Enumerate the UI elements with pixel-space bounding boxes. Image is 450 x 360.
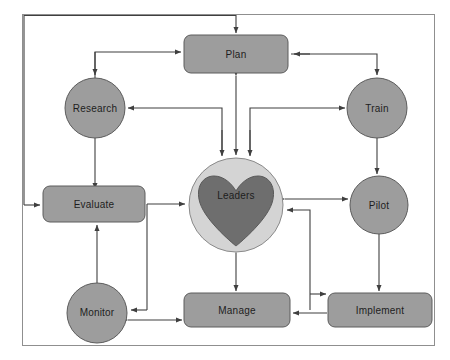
node-evaluate[interactable]: Evaluate bbox=[43, 186, 145, 222]
node-manage-shape[interactable] bbox=[184, 293, 290, 327]
node-plan-shape[interactable] bbox=[184, 35, 288, 73]
node-pilot[interactable]: Pilot bbox=[350, 176, 408, 234]
node-manage[interactable]: Manage bbox=[184, 293, 290, 327]
diagram-canvas: Plan Research Train Evaluate Leaders Pil… bbox=[0, 0, 450, 360]
node-research[interactable]: Research bbox=[65, 78, 125, 138]
edge-leaders-to-research bbox=[128, 108, 222, 155]
node-monitor[interactable]: Monitor bbox=[67, 283, 127, 343]
node-plan[interactable]: Plan bbox=[184, 35, 288, 73]
node-train-shape[interactable] bbox=[347, 78, 407, 138]
edge-research-to-plan bbox=[95, 52, 181, 78]
node-evaluate-shape[interactable] bbox=[43, 186, 145, 222]
edge-plan-to-train bbox=[291, 54, 377, 75]
edge-implement-to-leaders bbox=[287, 210, 310, 310]
node-train[interactable]: Train bbox=[347, 78, 407, 138]
flow-diagram: Plan Research Train Evaluate Leaders Pil… bbox=[0, 0, 450, 360]
edge-leaders-to-train bbox=[250, 108, 345, 155]
node-research-shape[interactable] bbox=[65, 78, 125, 138]
node-implement-shape[interactable] bbox=[328, 293, 432, 327]
node-pilot-shape[interactable] bbox=[350, 176, 408, 234]
node-monitor-shape[interactable] bbox=[67, 283, 127, 343]
node-implement[interactable]: Implement bbox=[328, 293, 432, 327]
node-leaders[interactable]: Leaders bbox=[189, 158, 283, 252]
